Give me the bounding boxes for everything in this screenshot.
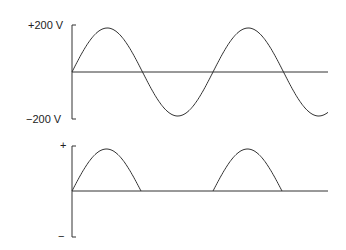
- bottom-plot: [72, 146, 328, 237]
- top-plot: [72, 25, 328, 119]
- label-plus-200v: +200 V: [28, 19, 63, 31]
- waveform-diagram: [0, 0, 346, 250]
- label-plus: +: [60, 139, 66, 151]
- label-minus: −: [58, 230, 64, 242]
- rectified-wave: [72, 149, 282, 191]
- label-minus-200v: −200 V: [26, 113, 61, 125]
